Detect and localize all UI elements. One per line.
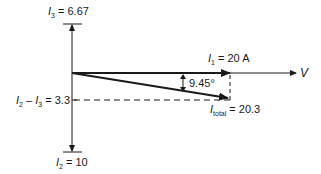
angle-label: 9.45°	[189, 78, 215, 89]
i3-label: I3 = 6.67	[48, 6, 89, 19]
itotal-label: Itotal = 20.3	[210, 104, 260, 117]
phasor-diagram	[0, 0, 321, 174]
i1-label: I1 = 20 A	[208, 53, 250, 66]
v-label: V	[300, 67, 308, 79]
i2-label: I2 = 10	[56, 157, 88, 170]
diff-label: I2 – I3 = 3.3	[16, 95, 70, 108]
